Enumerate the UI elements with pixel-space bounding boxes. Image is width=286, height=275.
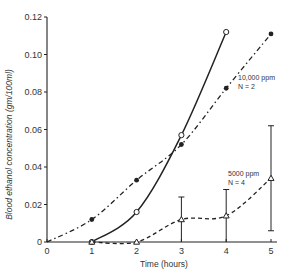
data-point-open-circle xyxy=(224,29,229,34)
series-line xyxy=(47,34,271,242)
y-tick-label: 0.12 xyxy=(24,12,42,22)
axes: 01234500.020.040.060.080.100.12 xyxy=(24,12,277,256)
annotation-10000ppm: 10,000 ppm xyxy=(238,74,275,82)
y-tick-label: 0.10 xyxy=(24,50,42,60)
series-layer xyxy=(47,29,274,244)
data-point-open-circle xyxy=(179,133,184,138)
annotation-5000ppm-n: N = 4 xyxy=(228,179,245,186)
data-point-filled-circle xyxy=(179,142,184,147)
x-tick-label: 4 xyxy=(224,246,229,256)
data-point-filled-circle xyxy=(224,86,229,91)
data-point-open-triangle xyxy=(178,217,184,222)
data-point-open-triangle xyxy=(268,175,274,180)
data-point-filled-circle xyxy=(134,178,139,183)
y-tick-label: 0.04 xyxy=(24,162,42,172)
series-0 xyxy=(89,29,229,244)
x-tick-label: 3 xyxy=(179,246,184,256)
data-point-open-circle xyxy=(134,209,139,214)
y-tick-label: 0 xyxy=(37,237,42,247)
data-point-filled-circle xyxy=(269,31,274,36)
x-tick-label: 2 xyxy=(134,246,139,256)
x-tick-label: 5 xyxy=(268,246,273,256)
annotation-5000ppm: 5000 ppm xyxy=(228,170,259,178)
series-1 xyxy=(47,31,273,242)
y-tick-label: 0.06 xyxy=(24,125,42,135)
x-axis-title: Time (hours) xyxy=(140,259,188,269)
annotation-10000ppm-n: N = 2 xyxy=(238,83,255,90)
chart: 01234500.020.040.060.080.100.12 Time (ho… xyxy=(0,0,286,275)
x-tick-label: 0 xyxy=(44,246,49,256)
y-axis-title: Blood ethanol concentration (gm/100ml) xyxy=(4,69,14,220)
data-point-filled-circle xyxy=(89,217,94,222)
x-tick-label: 1 xyxy=(89,246,94,256)
series-line xyxy=(92,32,226,242)
y-tick-label: 0.08 xyxy=(24,87,42,97)
y-tick-label: 0.02 xyxy=(24,200,42,210)
